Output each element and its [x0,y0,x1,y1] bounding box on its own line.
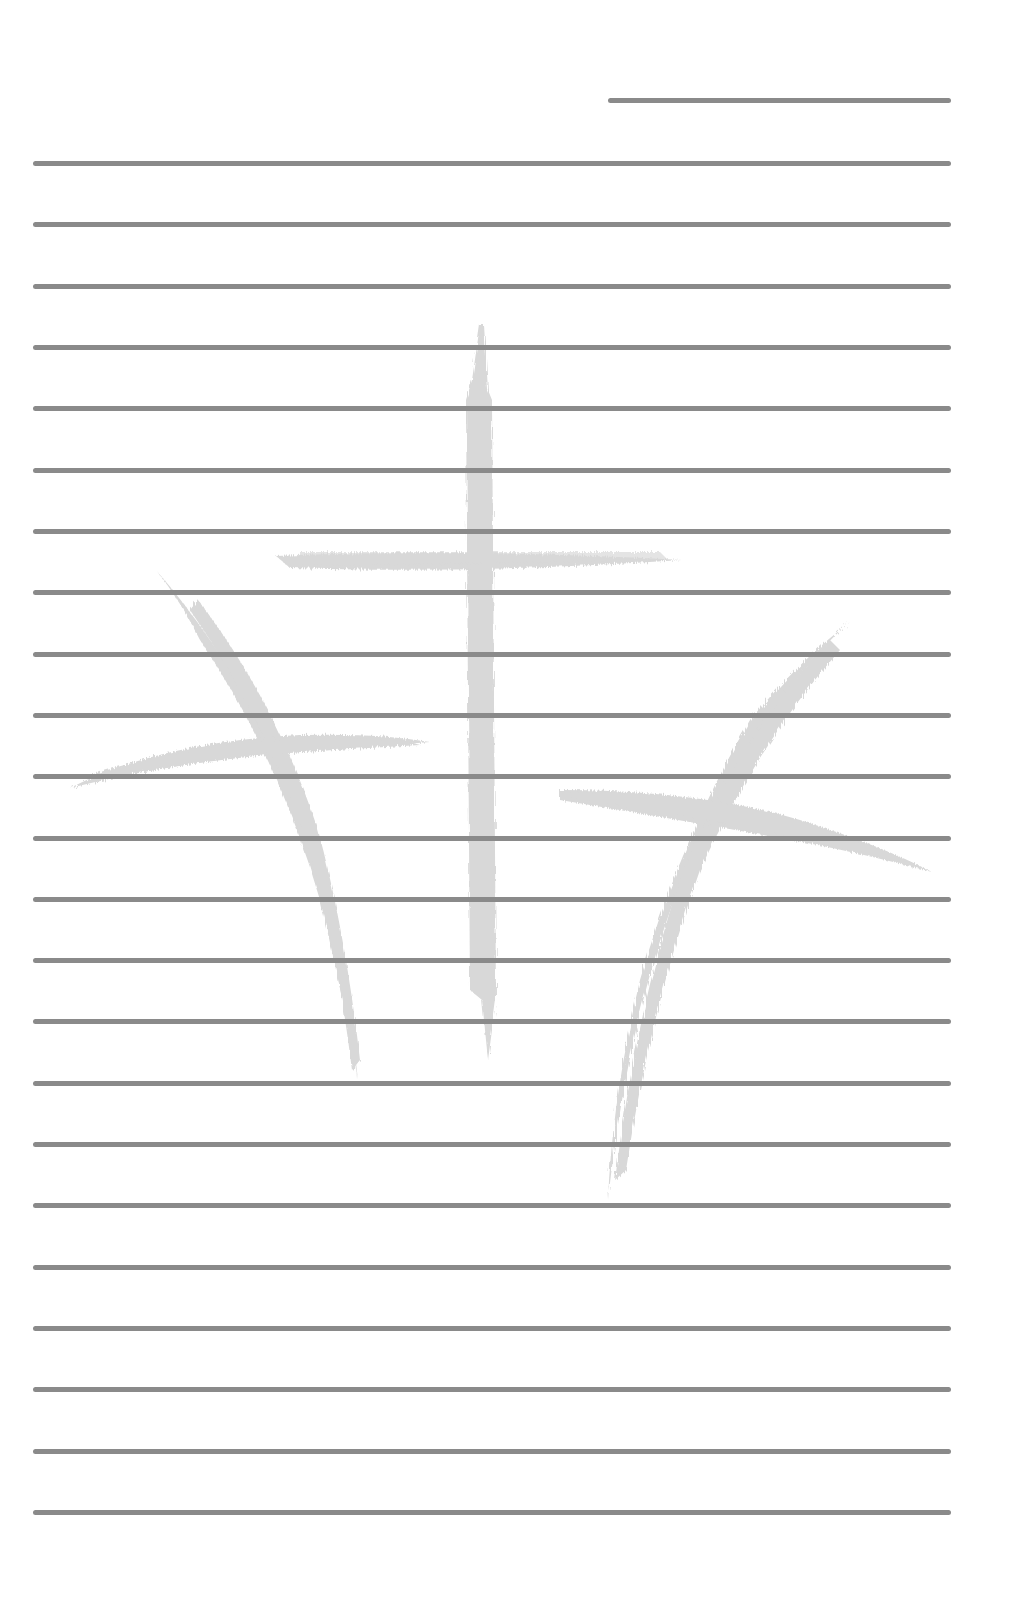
left-cross [70,570,430,1080]
ruled-line [33,774,951,779]
ruled-line [33,897,951,902]
ruled-line [33,1449,951,1454]
ruled-line [33,222,951,227]
ruled-line [33,1142,951,1147]
ruled-line [33,1019,951,1024]
ruled-line [33,468,951,473]
right-cross [560,622,932,1200]
ruled-line [33,406,951,411]
ruled-line [33,1265,951,1270]
three-crosses-watermark-icon [0,0,1034,1620]
ruled-line [33,1203,951,1208]
notepad-sheet [0,0,1034,1620]
ruled-line [33,958,951,963]
header-line [608,98,951,103]
ruled-line [33,836,951,841]
ruled-line [33,161,951,166]
ruled-line [33,590,951,595]
ruled-line [33,1387,951,1392]
ruled-line [33,284,951,289]
ruled-line [33,529,951,534]
ruled-line [33,713,951,718]
ruled-line [33,1081,951,1086]
ruled-line [33,1510,951,1515]
ruled-line [33,652,951,657]
ruled-line [33,345,951,350]
ruled-line [33,1326,951,1331]
